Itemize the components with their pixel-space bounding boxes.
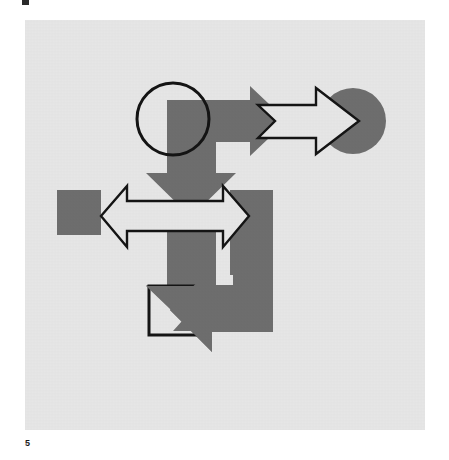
gray-square-left: [57, 190, 101, 235]
diagram-canvas: [25, 20, 425, 430]
registration-mark: [22, 0, 29, 5]
document-page: 5: [0, 0, 449, 460]
figure-panel: [25, 20, 425, 430]
page-number: 5: [25, 438, 30, 448]
